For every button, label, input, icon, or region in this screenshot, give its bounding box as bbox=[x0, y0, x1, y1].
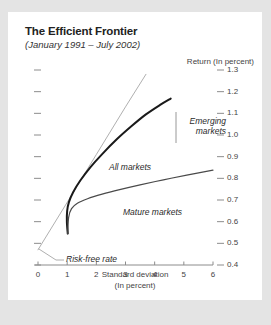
y-tick-label-1: 0.5 bbox=[227, 238, 238, 247]
y-tick-label-4: 0.8 bbox=[227, 173, 238, 182]
x-tick-label-2: 2 bbox=[86, 270, 106, 279]
annotation-risk-free-rate: Risk-free rate bbox=[66, 255, 117, 265]
y-tick-label-6: 1.0 bbox=[227, 130, 238, 139]
x-tick-label-4: 4 bbox=[145, 270, 165, 279]
annotation-leaders-group bbox=[39, 112, 176, 260]
x-tick-label-3: 3 bbox=[116, 270, 136, 279]
y-tick-label-9: 1.3 bbox=[227, 65, 238, 74]
annotation-risk-free-rate-leader bbox=[39, 249, 64, 260]
y-tick-label-3: 0.7 bbox=[227, 195, 238, 204]
chart-card: The Efficient Frontier (January 1991 – J… bbox=[8, 12, 262, 300]
y-tick-label-7: 1.1 bbox=[227, 108, 238, 117]
y-tick-label-8: 1.2 bbox=[227, 87, 238, 96]
annotation-emerging-markets-line2: markets bbox=[196, 126, 226, 136]
y-tick-label-0: 0.4 bbox=[227, 260, 238, 269]
annotation-emerging-markets-line1: Emerging bbox=[190, 116, 226, 126]
y-tick-label-2: 0.6 bbox=[227, 217, 238, 226]
x-tick-label-6: 6 bbox=[203, 270, 223, 279]
series-mature-markets bbox=[68, 170, 213, 233]
annotation-emerging-markets: Emergingmarkets bbox=[180, 117, 226, 136]
x-tick-label-5: 5 bbox=[174, 270, 194, 279]
chart-plot-area bbox=[8, 12, 262, 300]
x-tick-label-1: 1 bbox=[57, 270, 77, 279]
annotation-all-markets: All markets bbox=[109, 163, 151, 173]
y-tick-label-5: 0.9 bbox=[227, 152, 238, 161]
x-tick-label-0: 0 bbox=[28, 270, 48, 279]
annotation-mature-markets: Mature markets bbox=[123, 208, 182, 218]
